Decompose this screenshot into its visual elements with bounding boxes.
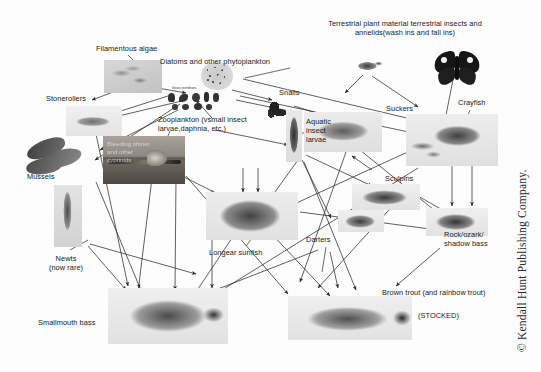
label-snails: Snails — [279, 88, 299, 97]
label-zooplankton: Zooplankton (vsmall insect larvae,daphni… — [158, 115, 247, 133]
edge-aquatic-larvae-to-darters — [302, 160, 331, 218]
stonerollers-image — [66, 106, 122, 136]
leader-diatoms — [245, 68, 290, 78]
brown-trout-image — [288, 296, 412, 340]
edge-terrestrial-to-drop — [345, 75, 363, 93]
label-suckers: Suckers — [386, 104, 413, 113]
edge-shiner-to-smallmouth — [138, 178, 152, 292]
invertebrate-row-caption: Various invertebrates — [172, 87, 196, 90]
leader-darters-label — [322, 247, 326, 272]
label-crayfish: Crayfish — [458, 98, 486, 107]
bleeding-shiner-inset-caption: Bleeding shiner and other cyprinids — [107, 140, 150, 163]
edge-darters-to-browntrout — [330, 252, 338, 288]
smallmouth-bass-image — [108, 288, 228, 344]
butterfly-image — [434, 50, 482, 88]
label-smallmouth-bass: Smallmouth bass — [38, 318, 95, 327]
food-web-figure: Various invertebrates Bleeding shiner an… — [0, 0, 541, 372]
edge-longear-to-smallmouth — [196, 232, 236, 292]
edge-sculpins-down-to-darters — [352, 156, 372, 170]
edge-aquatic-larvae-to-sculpins — [306, 155, 372, 186]
edge-mussels-to-smallmouth — [96, 182, 140, 288]
label-aquatic-insect-larvae: Aquatic insect larvae — [306, 117, 331, 144]
newts-image — [54, 185, 82, 247]
label-diatoms: Diatoms and other phytoplankton — [160, 57, 270, 66]
label-stocked: (STOCKED) — [418, 311, 459, 320]
edge-terrestrial-to-suckers — [372, 76, 418, 107]
edge-shiner-to-smallmouth-2 — [175, 178, 176, 290]
edge-newts-to-browntrout — [90, 244, 196, 274]
label-newts: Newts (now rare) — [38, 254, 94, 272]
label-filamentous-algae: Filamentous algae — [96, 44, 157, 53]
invertebrate-silhouette-row — [166, 92, 234, 112]
label-rock-bass: Rock/ozark/ shadow bass — [444, 230, 488, 248]
label-sculpins: Sculpins — [385, 174, 413, 183]
label-longear-sunfish: Longear sunfish — [209, 248, 262, 257]
crayfish-image — [406, 114, 498, 166]
edge-rockbass-to-browntrout — [396, 248, 440, 286]
label-mussels: Mussels — [27, 172, 54, 181]
terrestrial-insect-image — [352, 56, 386, 76]
filamentous-algae-image — [104, 60, 162, 93]
label-terrestrial-inputs: Terrestrial plant material terrestrial i… — [302, 19, 508, 37]
aquatic-insect-larvae-image — [286, 110, 302, 162]
longear-sunfish-image — [206, 192, 298, 240]
copyright-notice: © Kendall Hunt Publishing Company. — [516, 170, 528, 353]
sculpins-image — [352, 184, 420, 210]
darters-image — [338, 210, 384, 232]
label-darters: Darters — [306, 235, 331, 244]
label-brown-trout: Brown trout (and rainbow trout) — [382, 288, 485, 297]
diatoms-image — [200, 62, 234, 90]
label-stonerollers: Stonerollers — [46, 94, 86, 103]
edge-aquatic-larvae-to-longear — [272, 160, 298, 196]
